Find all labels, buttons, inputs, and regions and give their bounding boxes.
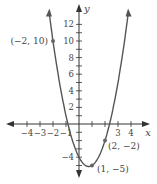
x-axis-label: x [145,127,151,138]
point-label: (−2, 10) [11,36,48,46]
y-tick-label: 4 [69,86,74,96]
y-tick-label: 6 [69,69,74,79]
data-point [90,164,94,168]
curve-left-arrow-icon [46,8,52,16]
curve-right-arrow-icon [126,8,132,16]
x-tick-label: −3 [34,128,47,138]
data-point [103,139,107,143]
y-axis-label: y [83,3,90,14]
y-tick-label: 12 [63,19,74,29]
chart-container: −4−3−2−13412108642−4xy(−2, 10)(1, −5)(2,… [0,0,157,184]
y-axis-down-arrow-icon [76,170,82,178]
data-point [51,39,55,43]
point-label: (2, −2) [108,141,140,151]
parabola-plot: −4−3−2−13412108642−4xy(−2, 10)(1, −5)(2,… [0,0,157,184]
y-tick-label: −4 [61,152,74,162]
y-tick-label: 2 [69,102,74,112]
y-tick-label: 8 [69,53,74,63]
x-tick-label: −4 [21,128,34,138]
x-tick-label: 4 [128,128,133,138]
x-axis-left-arrow-icon [6,121,14,127]
x-tick-label: −2 [47,128,60,138]
y-axis-up-arrow-icon [76,4,82,12]
y-tick-label: 10 [63,36,74,46]
point-label: (1, −5) [97,164,129,174]
x-tick-label: 3 [115,128,120,138]
